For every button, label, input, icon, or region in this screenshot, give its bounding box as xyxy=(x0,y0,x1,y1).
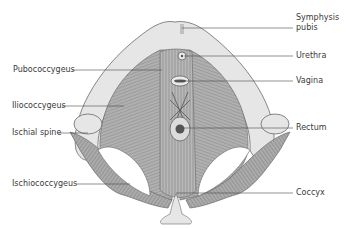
label-iliococcygeus: Iliococcygeus xyxy=(12,101,66,111)
label-ischiococcygeus: Ischiococcygeus xyxy=(12,179,77,189)
label-rectum: Rectum xyxy=(296,123,327,133)
label-urethra: Urethra xyxy=(296,51,326,61)
label-pubococcygeus: Pubococcygeus xyxy=(13,65,75,75)
rectum-opening xyxy=(170,117,190,141)
ischial-spine-bone-left xyxy=(74,114,102,134)
label-symphysis-line1: Symphysis xyxy=(296,13,339,23)
label-ischial-spine: Ischial spine xyxy=(12,128,61,138)
label-symphysis-pubis: Symphysis pubis xyxy=(296,13,339,33)
label-symphysis-line2: pubis xyxy=(296,23,339,33)
symphysis-pubis-joint xyxy=(180,24,184,34)
label-vagina: Vagina xyxy=(296,76,323,86)
ischial-spine-bone-right xyxy=(261,114,289,134)
label-coccyx: Coccyx xyxy=(296,188,325,198)
